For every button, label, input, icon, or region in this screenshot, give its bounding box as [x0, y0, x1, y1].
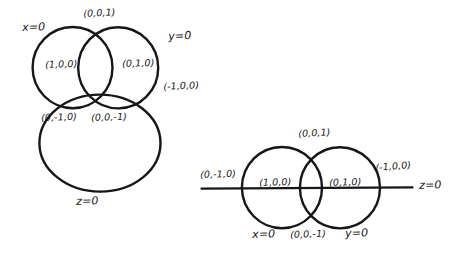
left-label-x-plane: x=0: [22, 21, 45, 33]
left-label-point-100: (1,0,0): [45, 59, 78, 70]
right-label-point-100: (1,0,0): [259, 177, 292, 188]
right-label-point-001: (0,0,1): [298, 127, 331, 138]
right-label-y-plane: y=0: [345, 227, 368, 239]
figure-root: x=0 (0,0,1) y=0 (1,0,0) (0,1,0) (-1,0,0)…: [0, 0, 466, 255]
right-diagram-strokes: [202, 147, 413, 228]
right-label-point-00m1: (0,0,-1): [290, 229, 326, 240]
left-label-point-0m10: (0,-1,0): [41, 112, 77, 123]
left-label-z-plane: z=0: [76, 195, 99, 207]
left-label-point-001: (0,0,1): [83, 7, 116, 18]
left-label-point-010: (0,1,0): [122, 58, 155, 69]
right-label-point-0m10: (0,-1,0): [200, 169, 236, 180]
left-diagram-strokes: [33, 27, 161, 192]
left-label-point-m100: (-1,0,0): [163, 80, 199, 91]
right-label-z-plane: z=0: [419, 179, 442, 191]
left-label-y-plane: y=0: [168, 30, 192, 42]
left-circle-z-plane: [39, 95, 160, 192]
left-label-point-00m1: (0,0,-1): [91, 112, 127, 123]
diagram-canvas: [0, 0, 466, 255]
right-label-x-plane: x=0: [252, 228, 275, 240]
right-label-point-010: (0,1,0): [329, 177, 362, 188]
